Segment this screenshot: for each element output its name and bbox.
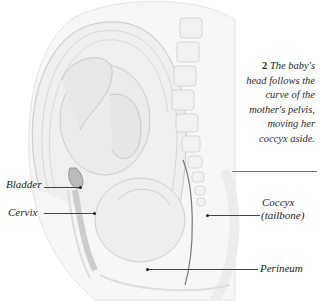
childbirth-anatomy-illustration [0, 0, 323, 301]
label-coccyx: Coccyx [262, 196, 294, 209]
fetus-head [95, 178, 185, 262]
label-coccyx-tailbone: (tailbone) [261, 209, 304, 222]
caption-line: moving her [267, 118, 315, 129]
caption-divider [232, 171, 317, 172]
figure-caption: 2 The baby's head follows the curve of t… [215, 59, 315, 147]
leader-line-cervix [44, 213, 94, 214]
caption-number: 2 [262, 60, 267, 71]
label-bladder: Bladder [6, 178, 41, 191]
label-perineum: Perineum [260, 262, 303, 275]
pointer-dot-perineum [146, 268, 149, 271]
pointer-dot-coccyx [206, 214, 209, 217]
caption-line: mother's pelvis, [249, 104, 315, 115]
leader-line-bladder [44, 187, 80, 188]
leader-line-perineum [148, 269, 258, 270]
caption-line: coccyx aside. [259, 133, 315, 144]
pointer-dot-bladder [79, 186, 82, 189]
label-cervix: Cervix [8, 206, 37, 219]
pointer-dot-cervix [93, 212, 96, 215]
caption-line: The baby's [270, 60, 315, 71]
leader-line-coccyx [208, 215, 260, 216]
caption-line: curve of the [265, 89, 315, 100]
caption-line: head follows the [246, 75, 315, 86]
